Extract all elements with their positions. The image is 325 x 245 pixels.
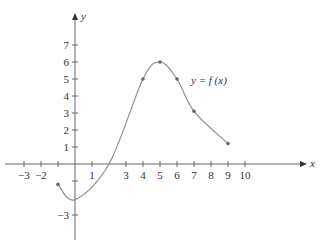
y-axis-label: y: [80, 10, 86, 22]
x-tick-label: 7: [191, 169, 197, 181]
y-tick-label: −3: [57, 209, 69, 221]
data-point: [175, 77, 179, 81]
x-tick-label: 3: [123, 169, 129, 181]
function-label: y = f (x): [190, 74, 227, 87]
axes: x y: [5, 10, 315, 240]
y-tick-label: 5: [64, 73, 70, 85]
y-tick-label: 3: [64, 107, 70, 119]
y-tick-label: 4: [64, 90, 70, 102]
data-point: [141, 77, 145, 81]
data-point: [158, 60, 162, 64]
data-point: [56, 183, 60, 187]
function-graph: x y −3−21345678910 −31234567 y = f (x): [0, 0, 325, 245]
x-tick-label: 1: [89, 169, 95, 181]
data-point: [192, 110, 196, 114]
x-axis-arrow-icon: [300, 161, 307, 167]
y-axis-arrow-icon: [72, 13, 78, 20]
x-tick-label: 4: [140, 169, 146, 181]
x-tick-label: 10: [240, 169, 252, 181]
y-tick-label: 1: [64, 141, 70, 153]
x-axis-label: x: [309, 157, 315, 169]
y-tick-label: 2: [64, 124, 70, 136]
x-tick-label: 5: [157, 169, 163, 181]
data-point: [226, 142, 230, 146]
x-tick-label: 8: [208, 169, 214, 181]
y-tick-label: 7: [64, 39, 70, 51]
x-tick-label: 6: [174, 169, 180, 181]
x-tick-label: −3: [18, 169, 30, 181]
x-tick-label: 9: [225, 169, 231, 181]
y-tick-label: 6: [64, 56, 70, 68]
x-tick-label: −2: [35, 169, 47, 181]
